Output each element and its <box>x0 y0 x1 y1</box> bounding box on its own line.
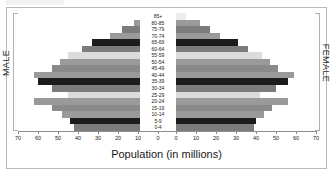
x-axis-tick-label: 10 <box>193 135 199 141</box>
x-axis-tick <box>38 131 39 134</box>
x-axis-tick-label: 20 <box>213 135 219 141</box>
x-axis-tick <box>296 131 297 134</box>
x-axis-tick <box>256 131 257 134</box>
male-bracket-rail <box>13 13 14 131</box>
x-axis-tick <box>276 131 277 134</box>
x-axis-tick-label: 40 <box>253 135 259 141</box>
x-axis-tick <box>196 131 197 134</box>
x-axis-tick <box>18 131 19 134</box>
x-axis-tick <box>78 131 79 134</box>
x-axis-tick-label: 0 <box>174 135 177 141</box>
x-axis-tick-label: 50 <box>273 135 279 141</box>
x-axis-tick-label: 20 <box>115 135 121 141</box>
x-axis-tick <box>98 131 99 134</box>
male-axis-label: MALE <box>1 43 11 83</box>
female-bracket-rail <box>319 13 320 131</box>
x-axis-line <box>18 131 316 132</box>
x-axis-tick-label: 60 <box>35 135 41 141</box>
x-axis-tick-label: 70 <box>313 135 319 141</box>
x-axis-tick-label: 50 <box>55 135 61 141</box>
age-group-label-column: 85+80-8575-7970-7465-6960-6455-5950-5445… <box>140 13 176 131</box>
x-axis-tick-label: 30 <box>233 135 239 141</box>
x-axis-tick <box>236 131 237 134</box>
female-bar[interactable] <box>176 124 254 131</box>
x-axis-tick-label: 70 <box>15 135 21 141</box>
x-axis-tick-label: 40 <box>75 135 81 141</box>
x-axis-tick <box>138 131 139 134</box>
chart-canvas: MALE FEMALE 85+80-8575-7970-7465-6960-64… <box>0 0 333 175</box>
x-axis-tick <box>158 131 159 134</box>
x-axis-tick <box>118 131 119 134</box>
top-edge-artifact <box>6 0 64 5</box>
female-axis-label: FEMALE <box>321 43 331 83</box>
x-axis-tick-label: 30 <box>95 135 101 141</box>
x-axis-tick-label: 10 <box>135 135 141 141</box>
x-axis-tick <box>216 131 217 134</box>
x-axis-title: Population (in millions) <box>0 148 333 160</box>
x-axis-tick <box>58 131 59 134</box>
x-axis-tick-label: 60 <box>293 135 299 141</box>
x-axis-tick-label: 0 <box>156 135 159 141</box>
age-group-label: 0-4 <box>140 124 176 131</box>
x-axis-tick <box>316 131 317 134</box>
x-axis-tick <box>176 131 177 134</box>
